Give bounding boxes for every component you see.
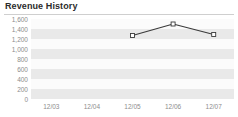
data-point-marker [171, 22, 175, 26]
y-axis-tick-label: 1,600 [0, 16, 28, 23]
y-axis: 1,6001,4001,2001,0008006004002000 [0, 19, 28, 99]
revenue-history-widget: Revenue History 1,6001,4001,2001,0008006… [0, 0, 238, 117]
x-axis-tick-label: 12/04 [84, 103, 100, 111]
y-axis-tick-label: 200 [0, 86, 28, 93]
plot-area [31, 19, 234, 99]
y-axis-tick-label: 0 [0, 96, 28, 103]
data-point-marker [131, 34, 135, 38]
y-axis-tick-label: 800 [0, 56, 28, 63]
y-axis-tick-label: 400 [0, 76, 28, 83]
x-axis-tick-label: 12/05 [124, 103, 140, 111]
y-axis-tick-label: 1,400 [0, 26, 28, 33]
series-markers [131, 22, 216, 38]
y-axis-tick-label: 1,000 [0, 46, 28, 53]
y-axis-tick-label: 600 [0, 66, 28, 73]
header-divider [4, 14, 234, 15]
x-axis-tick-label: 12/07 [206, 103, 222, 111]
y-axis-tick-label: 1,200 [0, 36, 28, 43]
x-axis-tick-label: 12/03 [43, 103, 59, 111]
page-title: Revenue History [5, 1, 78, 11]
x-axis: 12/0312/0412/0512/0612/07 [31, 101, 234, 115]
data-point-marker [212, 33, 216, 37]
x-axis-tick-label: 12/06 [165, 103, 181, 111]
series-revenue [31, 19, 234, 99]
line-chart: 1,6001,4001,2001,0008006004002000 12/031… [0, 17, 238, 117]
